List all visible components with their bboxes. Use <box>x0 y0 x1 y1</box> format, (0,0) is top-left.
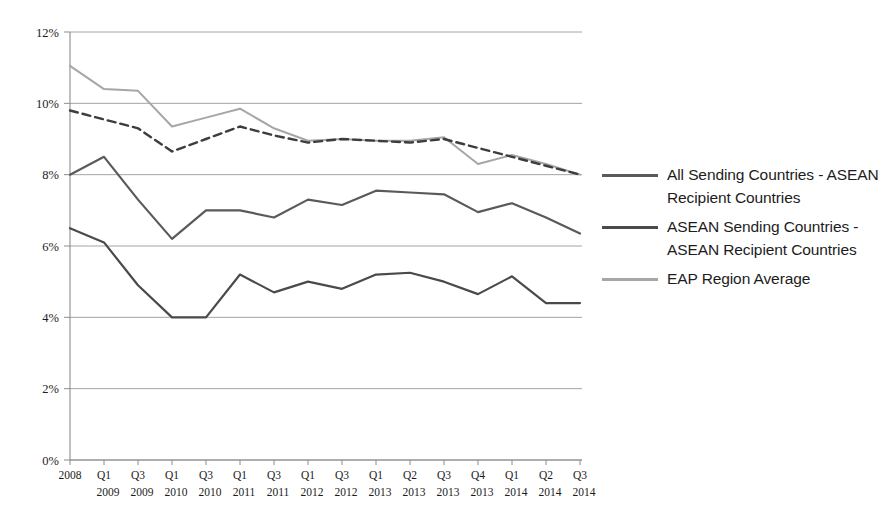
x-axis-tick-label-bottom: 2009 <box>131 486 154 498</box>
x-axis-tick-label-top: Q3 <box>335 469 349 481</box>
x-axis-tick-label-bottom: 2011 <box>267 486 290 498</box>
y-axis-tick-label: 4% <box>42 311 59 325</box>
y-axis-tick-label: 10% <box>36 97 59 111</box>
x-axis-tick-label-bottom: 2012 <box>301 486 324 498</box>
x-axis-tick-label-top: Q2 <box>539 469 553 481</box>
y-axis-tick-label: 12% <box>36 26 59 40</box>
x-axis-tick-label-top: 2008 <box>59 469 82 481</box>
legend-item-label: ASEAN Sending Countries - ASEAN Recipien… <box>667 215 882 261</box>
chart-legend: All Sending Countries - ASEAN Recipient … <box>600 163 890 296</box>
series-line <box>70 157 580 239</box>
y-axis-tick-label: 6% <box>42 240 59 254</box>
x-axis-tick-label-top: Q1 <box>369 469 383 481</box>
series-line <box>70 228 580 317</box>
legend-line-swatch-icon <box>600 272 658 288</box>
y-axis-labels: 0%2%4%6%8%10%12% <box>36 26 59 468</box>
x-axis-tick-label-bottom: 2012 <box>335 486 358 498</box>
x-axis-tick-label-bottom: 2011 <box>233 486 256 498</box>
x-axis-tick-label-bottom: 2014 <box>539 486 562 498</box>
x-axis-tick-label-bottom: 2010 <box>165 486 188 498</box>
legend-item[interactable]: ASEAN Sending Countries - ASEAN Recipien… <box>600 215 890 261</box>
y-axis-tick-label: 0% <box>42 454 59 468</box>
series-line <box>70 66 580 175</box>
legend-line-swatch-icon <box>600 168 658 184</box>
x-axis-tick-label-top: Q1 <box>301 469 315 481</box>
legend-item-label: EAP Region Average <box>667 267 810 290</box>
x-axis-tick-label-bottom: 2014 <box>505 486 528 498</box>
x-axis-tick-label-top: Q3 <box>437 469 451 481</box>
y-axis-tick-label: 2% <box>42 382 59 396</box>
gridlines <box>70 32 582 460</box>
legend-line-swatch-icon <box>600 220 658 236</box>
legend-item-label: All Sending Countries - ASEAN Recipient … <box>667 163 882 209</box>
x-axis-tick-marks <box>70 460 580 465</box>
legend-item[interactable]: EAP Region Average <box>600 267 890 290</box>
series-line <box>70 110 580 174</box>
x-axis-tick-label-top: Q3 <box>199 469 213 481</box>
x-axis-tick-label-top: Q3 <box>131 469 145 481</box>
x-axis-tick-label-bottom: 2013 <box>369 486 392 498</box>
x-axis-tick-label-top: Q1 <box>97 469 111 481</box>
x-axis-tick-label-top: Q1 <box>505 469 519 481</box>
legend-item[interactable]: All Sending Countries - ASEAN Recipient … <box>600 163 890 209</box>
x-axis-tick-label-bottom: 2013 <box>471 486 494 498</box>
x-axis-tick-label-top: Q2 <box>403 469 417 481</box>
x-axis-tick-label-bottom: 2009 <box>97 486 120 498</box>
x-axis-tick-label-bottom: 2010 <box>199 486 222 498</box>
y-axis-tick-label: 8% <box>42 168 59 182</box>
x-axis-tick-label-bottom: 2013 <box>403 486 426 498</box>
y-axis-tick-marks <box>64 32 70 460</box>
x-axis-tick-label-top: Q1 <box>165 469 179 481</box>
x-axis-tick-label-top: Q3 <box>573 469 587 481</box>
x-axis-labels: 2008Q12009Q32009Q12010Q32010Q12011Q32011… <box>59 469 596 498</box>
x-axis-tick-label-top: Q4 <box>471 469 485 481</box>
x-axis-tick-label-top: Q3 <box>267 469 281 481</box>
x-axis-tick-label-bottom: 2014 <box>573 486 596 498</box>
x-axis-tick-label-top: Q1 <box>233 469 247 481</box>
chart-container: 0%2%4%6%8%10%12% 2008Q12009Q32009Q12010Q… <box>0 0 895 523</box>
x-axis-tick-label-bottom: 2013 <box>437 486 460 498</box>
